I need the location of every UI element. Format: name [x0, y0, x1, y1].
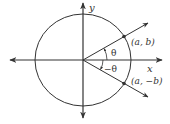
point-label-a-neg-b: (a, −b) — [131, 76, 163, 86]
theta-label: θ — [111, 48, 116, 58]
unit-circle-diagram: y x θ −θ (a, b) (a, −b) — [0, 0, 170, 124]
point-a-neg-b — [122, 82, 126, 86]
point-label-a-b: (a, b) — [131, 37, 155, 47]
negative-theta-label: −θ — [104, 64, 117, 74]
angle-arc-negative-theta — [101, 60, 104, 70]
point-a-b — [122, 35, 126, 39]
y-axis-label: y — [88, 2, 95, 13]
x-axis-label: x — [147, 63, 153, 74]
angle-arc-theta — [104, 49, 107, 61]
